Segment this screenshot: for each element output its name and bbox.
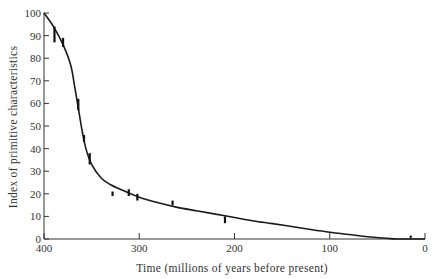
chart-canvas: 0102030405060708090100 4003002001000 Tim…: [0, 0, 439, 279]
y-tick-label: 30: [30, 165, 42, 177]
y-axis-title: Index of primitive characteristics: [7, 46, 20, 209]
y-tick-label: 10: [30, 210, 42, 222]
y-tick-label: 50: [30, 120, 42, 132]
y-tick-label: 80: [30, 52, 42, 64]
y-tick-label: 60: [30, 97, 42, 109]
x-tick-label: 200: [226, 242, 243, 254]
x-tick-label: 300: [131, 242, 148, 254]
x-tick-label: 100: [322, 242, 339, 254]
x-tick-label: 400: [36, 242, 53, 254]
fitted-curve: [44, 13, 425, 239]
observation-markers: [54, 27, 410, 238]
y-tick-label: 40: [30, 143, 42, 155]
y-tick-label: 70: [30, 75, 42, 87]
y-axis-ticks: 0102030405060708090100: [25, 7, 50, 245]
y-tick-label: 20: [30, 188, 42, 200]
axes: [44, 13, 425, 239]
x-tick-label: 0: [422, 242, 428, 254]
y-tick-label: 90: [30, 30, 42, 42]
y-tick-label: 100: [25, 7, 42, 19]
x-axis-title: Time (millions of years before present): [136, 262, 328, 275]
